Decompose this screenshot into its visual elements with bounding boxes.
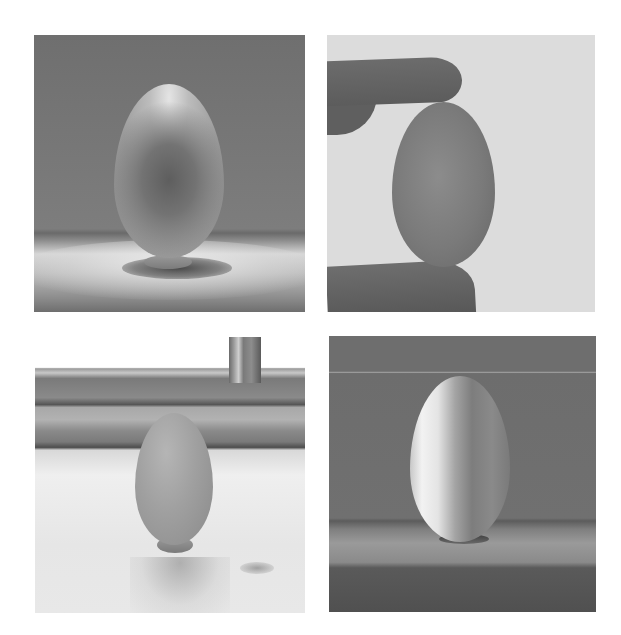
wooden-egg <box>410 376 510 542</box>
thumb-lower <box>327 259 476 312</box>
egg-shadow <box>130 557 230 613</box>
photo-egg-windowsill <box>35 337 305 613</box>
finger-upper <box>327 56 463 106</box>
sill-smudge <box>240 562 274 574</box>
window-mullion <box>229 337 261 383</box>
photo-egg-held-fingers <box>327 35 595 312</box>
wooden-egg <box>114 84 224 258</box>
photo-egg-sidelit <box>329 336 596 612</box>
wooden-egg <box>392 102 495 267</box>
wooden-egg <box>135 413 213 545</box>
photo-egg-spotlight <box>34 35 305 312</box>
